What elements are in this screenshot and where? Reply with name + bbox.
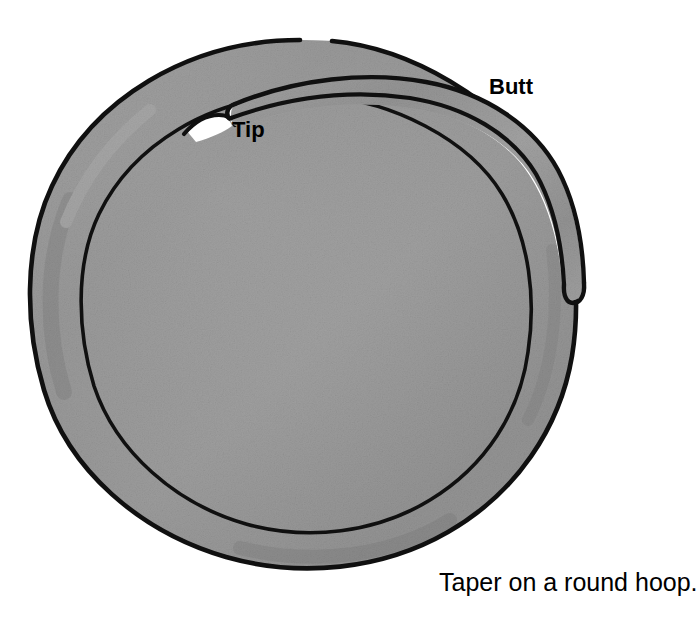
- figure-caption: Taper on a round hoop.: [439, 569, 698, 597]
- tip-label: Tip: [232, 119, 265, 141]
- butt-label: Butt: [489, 76, 533, 98]
